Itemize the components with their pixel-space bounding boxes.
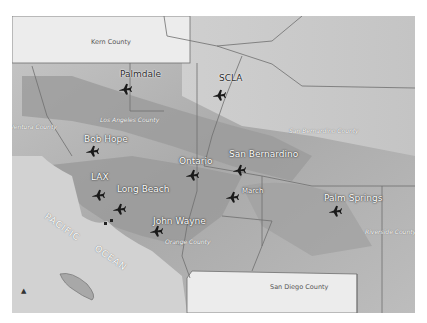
airplane-icon-john-wayne[interactable] xyxy=(149,224,163,238)
county-label-los-angeles: Los Angeles County xyxy=(100,117,159,123)
terrain-layer xyxy=(12,16,415,313)
airport-label-palmdale[interactable]: Palmdale xyxy=(120,70,161,79)
port-marker xyxy=(110,219,113,222)
county-label-orange: Orange County xyxy=(165,239,210,245)
airport-label-long-beach[interactable]: Long Beach xyxy=(117,185,170,194)
airplane-icon-palm-springs[interactable] xyxy=(328,204,342,218)
airplane-icon-scla[interactable] xyxy=(212,88,226,102)
airplane-icon-bob-hope[interactable] xyxy=(85,144,99,158)
north-arrow-icon: ▲ xyxy=(21,288,26,295)
airport-label-march[interactable]: March xyxy=(242,188,263,195)
county-label-kern: Kern County xyxy=(91,39,131,46)
airplane-icon-long-beach[interactable] xyxy=(112,202,126,216)
airport-label-bob-hope[interactable]: Bob Hope xyxy=(84,135,128,144)
airport-label-scla[interactable]: SCLA xyxy=(219,74,242,83)
airport-label-lax[interactable]: LAX xyxy=(91,173,109,182)
airport-label-palm-springs[interactable]: Palm Springs xyxy=(324,194,382,203)
county-label-riverside: Riverside County xyxy=(365,229,415,235)
county-label-san-bernardino: San Bernardino County xyxy=(289,128,359,134)
map-canvas[interactable]: Kern County Los Angeles County Ventura C… xyxy=(12,16,415,313)
airplane-icon-lax[interactable] xyxy=(91,188,105,202)
port-marker xyxy=(104,222,107,225)
airplane-icon-san-bernardino[interactable] xyxy=(232,163,246,177)
airplane-icon-march[interactable] xyxy=(225,190,239,204)
airport-label-ontario[interactable]: Ontario xyxy=(179,157,213,166)
county-label-san-diego: San Diego County xyxy=(270,284,328,291)
airplane-icon-palmdale[interactable] xyxy=(118,82,132,96)
county-label-ventura: Ventura County xyxy=(12,124,57,130)
airplane-icon-ontario[interactable] xyxy=(185,168,199,182)
airport-label-san-bernardino[interactable]: San Bernardino xyxy=(229,150,298,159)
